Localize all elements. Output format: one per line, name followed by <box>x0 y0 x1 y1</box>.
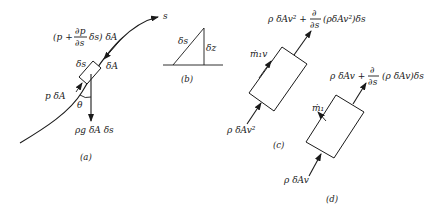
panel-a-caption: (a) <box>80 152 92 162</box>
weight-label: ρg δA δs <box>74 125 114 135</box>
streamline-s-label: s <box>163 11 168 21</box>
outflow-mass-label-suffix: (ρ δAv)δs <box>382 71 424 81</box>
outflow-frac-den: ∂s <box>310 20 320 30</box>
panel-b: δs δz (b) <box>163 28 223 84</box>
panel-d: ρ δAv + ∂ ∂s (ρ δAv)δs ṁ₁ ρ δAv (d) <box>283 65 424 204</box>
inflow-mass-label: ρ δAv <box>283 175 309 185</box>
theta-angle-arc <box>80 95 91 98</box>
outflow-mass-label-prefix: ρ δAv + <box>329 71 365 81</box>
element-area-label: δA <box>106 61 118 71</box>
outflow-momentum-arrow <box>294 31 311 55</box>
inflow-momentum-arrow <box>247 103 261 124</box>
outflow-mass-arrow <box>353 83 366 104</box>
top-force-frac-den: ∂s <box>75 38 85 48</box>
hypotenuse-line <box>173 28 204 65</box>
inflow-mass-arrow <box>309 154 321 176</box>
outflow-label-prefix: ρ δAv² + <box>267 14 307 24</box>
top-force-label-suffix: δs) δA <box>89 32 118 42</box>
side-inflow-label: ṁ₁v <box>250 49 267 59</box>
top-force-frac-num: ∂p <box>75 26 86 36</box>
outflow-mass-frac-den: ∂s <box>368 77 378 87</box>
hypotenuse-label: δs <box>178 36 188 46</box>
top-force-label-prefix: (p + <box>53 32 73 42</box>
outflow-label-suffix: (ρδAv²)δs <box>323 14 366 24</box>
side-mass-inflow-label: ṁ₁ <box>312 103 324 113</box>
panel-b-caption: (b) <box>181 74 193 84</box>
bottom-force-arrow <box>76 83 82 92</box>
bottom-force-label: p δA <box>45 91 66 101</box>
outflow-mass-frac-num: ∂ <box>370 65 375 75</box>
vertical-rise-label: δz <box>206 43 216 53</box>
inflow-label: ρ δAv² <box>226 125 256 135</box>
theta-label: θ <box>77 100 83 110</box>
panel-c-caption: (c) <box>273 140 284 150</box>
element-length-label: δs <box>76 59 86 69</box>
panel-a: s (p + ∂p ∂s δs) δA δs δA p δA θ ρg δA δ… <box>20 11 168 162</box>
panel-d-caption: (d) <box>326 194 338 204</box>
outflow-frac-num: ∂ <box>312 8 317 18</box>
fluid-element-diagram: s (p + ∂p ∂s δs) δA δs δA p δA θ ρg δA δ… <box>0 0 443 211</box>
